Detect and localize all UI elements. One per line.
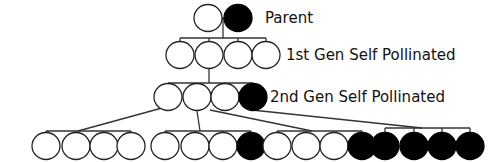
gen2-to-gen3-line bbox=[210, 110, 312, 131]
connector-lines bbox=[46, 18, 470, 132]
gen3-node-open-circle bbox=[117, 133, 145, 160]
gen1-node-open-circle bbox=[166, 42, 194, 69]
parent-node-open-circle bbox=[194, 5, 222, 32]
gen2-node-open-circle bbox=[183, 84, 211, 111]
gen2-node-open-circle bbox=[211, 84, 239, 111]
gen3-node-open-circle bbox=[151, 133, 179, 160]
gen3-node-open-circle bbox=[209, 133, 237, 160]
label-parent: Parent bbox=[265, 9, 313, 27]
pedigree-diagram: Parent 1st Gen Self Pollinated 2nd Gen S… bbox=[0, 0, 498, 162]
gen2-to-gen3-line bbox=[252, 110, 422, 128]
gen3-node-filled-circle bbox=[428, 133, 456, 160]
label-gen2: 2nd Gen Self Pollinated bbox=[270, 88, 445, 106]
gen3-node-filled-circle bbox=[237, 133, 265, 160]
gen2-to-gen3-line bbox=[197, 111, 200, 131]
gen3-node-open-circle bbox=[32, 133, 60, 160]
label-gen1: 1st Gen Self Pollinated bbox=[286, 46, 456, 64]
gen1-node-open-circle bbox=[195, 42, 223, 69]
gen3-node-filled-circle bbox=[371, 133, 399, 160]
gen1-node-open-circle bbox=[252, 42, 280, 69]
gen2-node-filled-circle bbox=[239, 84, 267, 111]
gen3-node-open-circle bbox=[320, 133, 348, 160]
gen3-node-open-circle bbox=[292, 133, 320, 160]
gen3-node-filled-circle bbox=[400, 133, 428, 160]
parent-node-filled-circle bbox=[224, 5, 252, 32]
gen3-node-open-circle bbox=[263, 133, 291, 160]
gen1-node-open-circle bbox=[224, 42, 252, 69]
gen3-node-open-circle bbox=[62, 133, 90, 160]
plant-nodes bbox=[32, 5, 484, 160]
gen3-node-open-circle bbox=[181, 133, 209, 160]
gen3-node-filled-circle bbox=[456, 133, 484, 160]
gen2-to-gen3-line bbox=[78, 108, 162, 131]
gen3-node-open-circle bbox=[90, 133, 118, 160]
gen2-node-open-circle bbox=[154, 84, 182, 111]
